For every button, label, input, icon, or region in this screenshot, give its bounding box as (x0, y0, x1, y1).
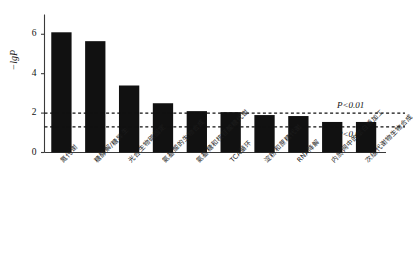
bar (153, 103, 173, 152)
p01-line-label: P<0.01 (337, 100, 364, 110)
y-axis-label: −lgP (8, 57, 19, 71)
y-axis-tick-label: 4 (21, 68, 37, 78)
y-axis-tick-label: 6 (21, 28, 37, 38)
y-axis-tick-label: 0 (21, 147, 37, 157)
bar (51, 32, 71, 152)
bar (288, 116, 308, 152)
bar (187, 111, 207, 152)
bar (119, 86, 139, 153)
y-axis-tick-label: 2 (21, 107, 37, 117)
bar (85, 41, 105, 152)
p05-line-label: P<0.05 (337, 129, 364, 139)
bar (221, 112, 241, 152)
bar (254, 115, 274, 152)
